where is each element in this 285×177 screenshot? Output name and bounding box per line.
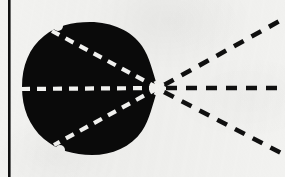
figure-canvas — [0, 0, 285, 177]
top-notch — [53, 21, 63, 31]
figure-svg — [0, 0, 285, 177]
horizontal-inner-ray — [20, 88, 158, 89]
bottom-notch — [55, 145, 65, 155]
vertical-rule-left — [8, 0, 11, 177]
